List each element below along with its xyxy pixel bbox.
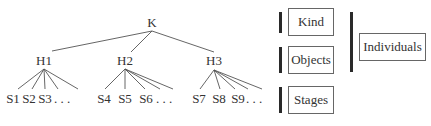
edge-k-h3 [152,31,214,52]
leaf-s4: S4 [97,91,111,106]
leaf-s5: S5 [118,91,132,106]
leaf-s9: S9 [231,91,245,106]
h1-edges [18,69,78,89]
stages-bracket-bar [279,87,282,113]
node-h2: H2 [117,53,133,68]
leaf-ellipsis-1: . . . [54,91,70,106]
node-h3: H3 [206,53,222,68]
leaf-s8: S8 [212,91,226,106]
objects-bracket-bar [279,47,282,73]
objects-box: Objects [288,46,334,74]
leaf-s6: S6 [139,91,153,106]
leaf-ellipsis-2: . . . [156,91,172,106]
node-h1: H1 [36,53,52,68]
tree-diagram: K H1 H2 H3 S1 S2 S3 . . . S4 S5 S6 . . .… [0,0,431,126]
leaf-ellipsis-3: . . . [246,91,262,106]
individuals-box: Individuals [359,33,426,61]
h3-edges [200,70,262,89]
leaf-s7: S7 [192,91,206,106]
leaf-s2: S2 [22,91,36,106]
node-k: K [147,15,157,30]
stages-box: Stages [288,86,334,114]
kind-box: Kind [288,8,334,36]
individuals-bracket-bar [350,12,353,72]
leaf-s1: S1 [6,91,20,106]
root-edges [52,31,214,52]
kind-bracket-bar [279,12,282,33]
h2-edges [105,69,173,89]
leaf-s3: S3 [38,91,52,106]
edge-k-h1 [52,31,152,51]
